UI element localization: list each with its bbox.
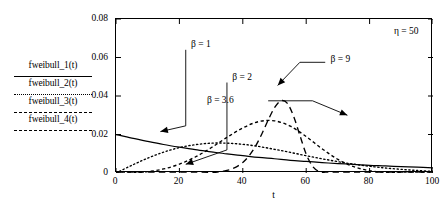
x-axis-tick-label: 40 xyxy=(237,176,247,186)
y-axis-tick-label: 0.02 xyxy=(62,129,108,139)
x-axis-tick-label: 0 xyxy=(113,176,118,186)
x-axis-tick-label: 20 xyxy=(174,176,184,186)
callout-arrow-beta-3.6 xyxy=(268,101,347,115)
beta-annotation-3: β = 3.6 xyxy=(207,95,234,105)
beta-annotation-2: β = 2 xyxy=(232,72,252,82)
legend-label: fweibull_4(t) xyxy=(14,114,92,125)
y-axis-tick-label: 0.04 xyxy=(62,90,108,100)
x-axis-tick-label: 100 xyxy=(425,176,439,186)
callout-arrow-beta-1 xyxy=(160,50,185,132)
small-dashed-line-icon xyxy=(14,112,92,113)
legend-item-fweibull-1: fweibull_1(t) xyxy=(14,60,92,78)
plot-svg xyxy=(116,19,433,173)
x-axis-tick-label: 60 xyxy=(300,176,310,186)
legend-label: fweibull_2(t) xyxy=(14,78,92,89)
series-line-3 xyxy=(116,120,433,173)
plot-area xyxy=(115,18,432,172)
x-axis-tick-label: 80 xyxy=(364,176,374,186)
solid-line-icon xyxy=(14,76,92,77)
legend-label: fweibull_1(t) xyxy=(14,60,92,71)
series-line-4 xyxy=(116,100,433,173)
y-axis-tick-label: 0.06 xyxy=(62,52,108,62)
x-axis-title: t xyxy=(272,190,275,200)
beta-annotation-4: β = 9 xyxy=(331,54,351,64)
series-line-1 xyxy=(116,135,433,168)
callout-arrow-beta-3.6-head xyxy=(339,109,347,115)
callout-arrow-beta-1-head xyxy=(160,127,168,133)
chart-figure: fweibull_1(t) fweibull_2(t) fweibull_3(t… xyxy=(0,0,448,205)
y-axis-tick-label: 0 xyxy=(62,167,108,177)
eta-annotation: η = 50 xyxy=(394,26,419,36)
y-axis-tick-label: 0.08 xyxy=(62,13,108,23)
beta-annotation-1: β = 1 xyxy=(191,39,211,49)
